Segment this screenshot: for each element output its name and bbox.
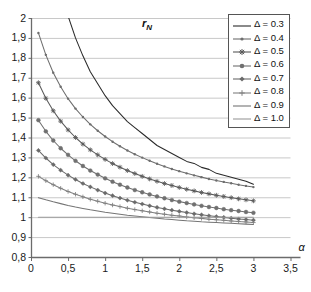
- marker-diamond: [155, 205, 159, 209]
- marker-plus: [118, 204, 122, 208]
- x-axis-tick-label: 1: [92, 262, 118, 274]
- marker-diamond: [110, 194, 114, 198]
- marker-dot: [193, 174, 195, 176]
- marker-plus: [51, 183, 55, 187]
- marker-dot: [111, 140, 113, 142]
- marker-circle: [88, 169, 92, 173]
- marker-dot: [186, 172, 188, 174]
- marker-diamond: [133, 200, 137, 204]
- marker-dot: [148, 160, 150, 162]
- marker-dot: [200, 176, 202, 178]
- marker-plus: [162, 212, 166, 216]
- legend-item[interactable]: Δ = 0.8: [232, 84, 286, 97]
- marker-star: [184, 187, 189, 192]
- series-line-5: [38, 176, 253, 222]
- legend-item-label: Δ = 0.6: [254, 58, 284, 69]
- legend-item[interactable]: Δ = 0.9: [232, 97, 286, 110]
- legend-dot: [240, 37, 243, 40]
- legend-item[interactable]: Δ = 0.4: [232, 30, 286, 43]
- marker-circle: [148, 193, 152, 197]
- y-axis-tick-label: 1: [2, 211, 26, 223]
- marker-diamond: [118, 196, 122, 200]
- marker-plus: [81, 195, 85, 199]
- marker-dot: [74, 107, 76, 109]
- marker-dot: [230, 182, 232, 184]
- marker-dot: [134, 153, 136, 155]
- marker-circle: [51, 139, 55, 143]
- marker-dot: [223, 181, 225, 183]
- marker-dot: [126, 149, 128, 151]
- marker-circle: [214, 206, 218, 210]
- marker-star: [169, 183, 174, 188]
- x-axis-tick-label: 0,5: [55, 262, 81, 274]
- marker-star: [155, 179, 160, 184]
- legend-item[interactable]: Δ = 0.3: [232, 17, 286, 30]
- marker-dot: [119, 145, 121, 147]
- legend-item-label: Δ = 0.9: [254, 99, 284, 110]
- marker-plus: [73, 192, 77, 196]
- marker-plus: [244, 220, 248, 224]
- y-axis-tick-label: 1,9: [2, 31, 26, 43]
- marker-circle: [207, 205, 211, 209]
- legend-item[interactable]: Δ = 0.7: [232, 71, 286, 84]
- marker-plus: [110, 203, 114, 207]
- legend-marker-circle-icon: [232, 58, 252, 70]
- marker-dot: [245, 185, 247, 187]
- marker-diamond: [192, 212, 196, 216]
- marker-diamond: [162, 207, 166, 211]
- marker-dot: [237, 184, 239, 186]
- x-axis-tick-label: 3,5: [278, 262, 304, 274]
- legend-diamond: [239, 77, 244, 82]
- series-group: [36, 0, 256, 225]
- x-axis-tick-label: 0: [18, 262, 44, 274]
- x-axis-label: α: [299, 241, 305, 253]
- marker-star: [110, 161, 115, 166]
- marker-plus: [44, 179, 48, 183]
- legend-item-label: Δ = 0.8: [254, 85, 284, 96]
- chart-title-subscript: N: [146, 23, 152, 32]
- series-line-2: [38, 83, 253, 201]
- marker-star: [229, 195, 234, 200]
- marker-diamond: [96, 188, 100, 192]
- marker-circle: [177, 200, 181, 204]
- marker-star: [103, 157, 108, 162]
- y-axis-tick-label: 1,6: [2, 91, 26, 103]
- legend-item[interactable]: Δ = 0.5: [232, 44, 286, 57]
- marker-star: [244, 197, 249, 202]
- y-axis-tick-label: 2: [2, 12, 26, 24]
- marker-star: [177, 185, 182, 190]
- marker-circle: [44, 129, 48, 133]
- marker-circle: [140, 190, 144, 194]
- marker-dot: [208, 178, 210, 180]
- y-axis-tick-label: 1,7: [2, 71, 26, 83]
- legend-item[interactable]: Δ = 1.0: [232, 111, 286, 124]
- marker-star: [199, 190, 204, 195]
- y-axis-tick-label: 1,8: [2, 51, 26, 63]
- x-axis-tick-label: 3: [240, 262, 266, 274]
- marker-star: [88, 147, 93, 152]
- y-axis-tick-label: 0,8: [2, 251, 26, 263]
- marker-diamond: [148, 204, 152, 208]
- marker-plus: [58, 186, 62, 190]
- marker-circle: [237, 209, 241, 213]
- marker-circle: [192, 203, 196, 207]
- marker-star: [118, 165, 123, 170]
- marker-circle: [133, 188, 137, 192]
- marker-star: [58, 119, 63, 124]
- marker-star: [81, 142, 86, 147]
- marker-circle: [59, 146, 63, 150]
- x-axis-tick-label: 1,5: [129, 262, 155, 274]
- x-axis-tick-label: 2: [166, 262, 192, 274]
- marker-star: [132, 171, 137, 176]
- marker-plus: [140, 209, 144, 213]
- marker-dot: [37, 32, 39, 34]
- legend-item[interactable]: Δ = 0.6: [232, 57, 286, 70]
- marker-diamond: [125, 198, 129, 202]
- legend-item-label: Δ = 1.0: [254, 112, 284, 123]
- marker-plus: [192, 216, 196, 220]
- y-axis-tick-label: 1,4: [2, 131, 26, 143]
- marker-circle: [37, 118, 41, 122]
- legend-marker-dot-icon: [232, 31, 252, 43]
- marker-circle: [96, 173, 100, 177]
- marker-dot: [52, 72, 54, 74]
